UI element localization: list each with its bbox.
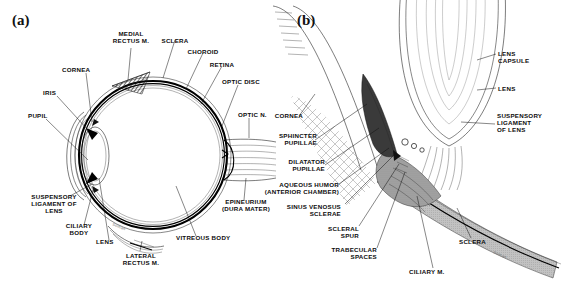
label-choroid: CHOROID: [182, 48, 224, 55]
label-cornea: CORNEA: [259, 112, 303, 119]
label-optic-disc: OPTIC DISC: [222, 78, 260, 85]
label-sinus-venosus-sclerae: SINUS VENOSUS SCLERAE: [269, 203, 341, 217]
label-ciliary-body: CILIARY BODY: [58, 222, 100, 236]
ciliary-body-shape: [92, 119, 99, 193]
label-epineurium-dura-mater: EPINEURIUM (DURA MATER): [218, 198, 274, 212]
label-medial-rectus-m: MEDIAL RECTUS M.: [100, 30, 162, 44]
label-lens-capsule: LENS CAPSULE: [498, 50, 529, 64]
iris-root-shape: [362, 74, 397, 157]
label-vitreous-body: VITREOUS BODY: [176, 234, 230, 241]
sclera-outline: [75, 77, 231, 233]
panel-a-eyeball-diagram: (a): [0, 0, 281, 294]
scleral-spur-shape: [393, 139, 424, 161]
label-iris: IRIS: [43, 89, 56, 96]
lateral-rectus-muscle: [108, 226, 164, 253]
label-sclera: SCLERA: [459, 238, 486, 245]
lens-fiber-arcs: [416, 0, 485, 124]
label-sphincter-pupillae: SPHINCTER PUPILLAE: [255, 132, 317, 146]
label-scleral-spur: SCLERAL SPUR: [303, 225, 359, 239]
label-retina: RETINA: [202, 61, 242, 68]
panel-b-angle-detail-diagram: (b): [281, 0, 561, 294]
choroid-retina-rings: [82, 84, 225, 227]
lens-capsule-shape: [399, 0, 505, 146]
label-sclera: SCLERA: [155, 37, 195, 44]
label-lens: LENS: [498, 85, 516, 92]
label-suspensory-ligament-of-lens: SUSPENSORY LIGAMENT OF LENS: [497, 112, 542, 134]
label-aqueous-humor-anterior-chamber: AQUEOUS HUMOR (ANTERIOR CHAMBER): [239, 181, 339, 195]
label-dilatator-pupillae: DILATATOR PUPILLAE: [263, 158, 325, 172]
label-cornea: CORNEA: [62, 66, 90, 73]
label-lateral-rectus-m: LATERAL RECTUS M.: [114, 252, 168, 266]
label-trabecular-spaces: TRABECULAR SPACES: [305, 246, 377, 260]
label-pupil: PUPIL: [28, 112, 47, 119]
ciliary-muscle-shape: [376, 152, 441, 212]
label-ciliary-m: CILIARY M.: [409, 268, 445, 275]
iris-shape: [86, 128, 98, 184]
label-suspensory-ligament-of-lens: SUSPENSORY LIGAMENT OF LENS: [24, 193, 84, 215]
label-lens: LENS: [96, 238, 114, 245]
